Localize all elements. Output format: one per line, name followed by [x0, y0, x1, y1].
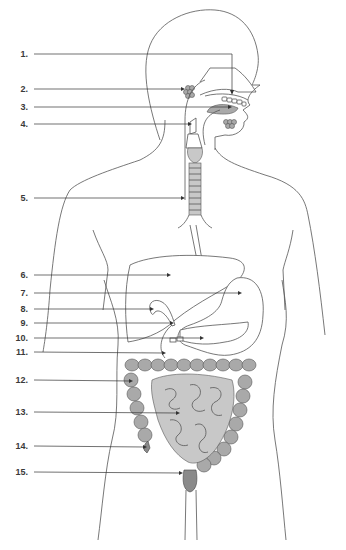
label-5: 5.: [0, 193, 28, 203]
label-7: 7.: [0, 288, 28, 298]
larynx-thyroid: [187, 148, 202, 163]
submandibular-gland: [224, 120, 237, 129]
label-6: 6.: [0, 270, 28, 280]
label-8: 8.: [0, 304, 28, 314]
label-13: 13.: [0, 407, 28, 417]
epiglottis: [190, 118, 196, 134]
pharynx: [203, 110, 220, 145]
label-1: 1.: [0, 49, 28, 59]
label-9: 9.: [0, 318, 28, 328]
waist-left: [98, 280, 118, 540]
larynx: [186, 134, 202, 148]
label-2: 2.: [0, 84, 28, 94]
duct-1: [170, 338, 176, 342]
label-3: 3.: [0, 102, 28, 112]
rectum: [183, 470, 197, 492]
label-10: 10.: [0, 333, 28, 343]
bronchi: [178, 215, 212, 228]
waist-right: [273, 280, 286, 540]
ascending-colon: [124, 373, 152, 442]
label-14: 14.: [0, 441, 28, 451]
label-11: 11.: [0, 347, 28, 357]
digestive-system-diagram: [0, 0, 346, 550]
nasal-cavity: [200, 68, 256, 95]
trachea: [189, 163, 201, 215]
label-15: 15.: [0, 467, 28, 477]
label-12: 12.: [0, 375, 28, 385]
inner-leg: [185, 490, 197, 540]
transverse-colon: [125, 359, 256, 371]
tongue: [207, 105, 238, 115]
esophagus: [190, 225, 202, 260]
duct-2: [177, 337, 183, 341]
arm-inner-left: [93, 230, 108, 310]
label-4: 4.: [0, 119, 28, 129]
